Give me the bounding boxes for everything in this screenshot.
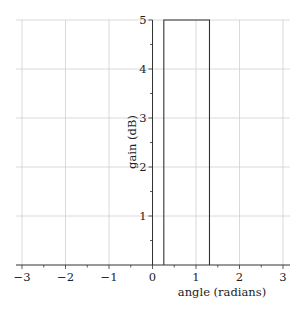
y-tick-label: 3	[139, 111, 146, 125]
x-tick-label: −2	[57, 270, 74, 284]
y-tick-label: 4	[139, 62, 146, 76]
y-tick-label: 5	[139, 13, 146, 27]
gain-chart: −3−2−1012312345 angle (radians) gain (dB…	[0, 0, 304, 310]
gain-pulse-line	[164, 20, 210, 265]
tick-labels: −3−2−1012312345	[14, 13, 287, 284]
x-tick-label: −3	[14, 270, 31, 284]
x-tick-label: 1	[192, 270, 199, 284]
y-axis-label: gain (dB)	[125, 115, 139, 169]
data-series	[164, 20, 210, 265]
axes	[16, 20, 290, 269]
x-tick-label: 0	[149, 270, 156, 284]
x-axis-label: angle (radians)	[178, 285, 266, 299]
x-tick-label: −1	[101, 270, 118, 284]
y-tick-label: 1	[139, 209, 146, 223]
x-tick-label: 3	[279, 270, 286, 284]
y-tick-label: 2	[139, 160, 146, 174]
x-tick-label: 2	[236, 270, 243, 284]
